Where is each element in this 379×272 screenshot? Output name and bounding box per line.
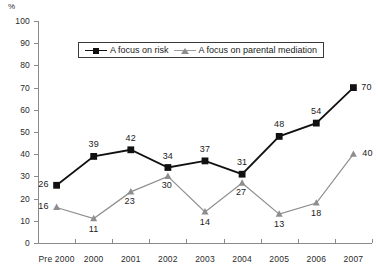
data-point-marker-square	[313, 120, 320, 127]
data-point-label: 34	[163, 151, 173, 161]
data-point-label: 13	[274, 219, 284, 229]
data-point-label: 14	[200, 217, 210, 227]
legend-item-risk: A focus on risk	[85, 45, 169, 55]
data-point-marker-square	[202, 158, 209, 165]
plot-area	[0, 0, 379, 272]
data-point-label: 40	[362, 148, 372, 158]
data-point-marker-square	[239, 171, 246, 178]
legend-label-mediation: A focus on parental mediation	[199, 45, 318, 55]
data-point-marker-triangle	[350, 150, 357, 156]
data-point-label: 16	[38, 201, 48, 211]
data-point-marker-triangle	[53, 204, 60, 211]
data-point-marker-square	[350, 84, 357, 91]
series-line-risk	[57, 88, 354, 186]
data-point-marker-square	[90, 153, 97, 160]
data-point-label: 31	[237, 157, 247, 167]
data-point-label: 26	[38, 179, 48, 189]
chart-legend: A focus on risk A focus on parental medi…	[78, 42, 324, 58]
legend-label-risk: A focus on risk	[110, 45, 169, 55]
data-point-label: 30	[162, 180, 172, 190]
data-point-label: 54	[311, 106, 321, 116]
legend-item-mediation: A focus on parental mediation	[174, 45, 318, 55]
data-point-label: 11	[89, 224, 99, 234]
data-point-label: 27	[236, 187, 246, 197]
data-point-label: 42	[126, 133, 136, 143]
data-point-marker-triangle	[239, 179, 246, 186]
data-point-marker-triangle	[164, 173, 171, 179]
data-point-marker-square	[127, 146, 134, 153]
legend-line-risk	[85, 50, 107, 51]
data-point-label: 70	[361, 82, 371, 92]
legend-line-mediation	[174, 50, 196, 51]
data-point-label: 18	[311, 208, 321, 218]
data-point-marker-square	[53, 182, 60, 189]
chart-container: % 1009080706050403020100 Pre 20002000200…	[0, 0, 379, 272]
data-point-label: 39	[88, 139, 98, 149]
data-point-marker-square	[276, 133, 283, 140]
triangle-marker-icon	[181, 48, 189, 54]
data-point-marker-square	[165, 164, 172, 171]
data-point-label: 48	[274, 119, 284, 129]
square-marker-icon	[93, 48, 99, 54]
data-point-label: 23	[125, 196, 135, 206]
data-point-label: 37	[200, 144, 210, 154]
